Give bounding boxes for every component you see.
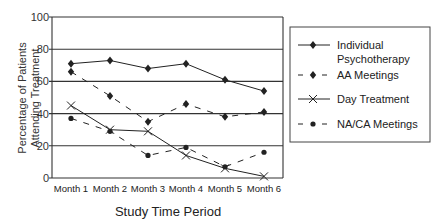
x-tick-label: Month 4 xyxy=(169,183,203,194)
diamond-marker-icon xyxy=(261,87,267,95)
legend-label: Psychotherapy xyxy=(337,53,410,65)
x-axis-title: Study Time Period xyxy=(115,204,221,219)
series-line xyxy=(71,106,264,177)
y-axis-title: Percentage of Patients Attending Treatme… xyxy=(16,42,41,154)
dot-marker-icon xyxy=(310,121,315,126)
diamond-marker-icon xyxy=(183,60,189,68)
diamond-marker-icon xyxy=(145,65,151,73)
dot-marker-icon xyxy=(145,153,150,158)
x-marker-icon xyxy=(260,172,268,180)
diamond-marker-icon xyxy=(107,56,113,64)
x-tick-label: Month 1 xyxy=(54,183,88,194)
diamond-marker-icon xyxy=(261,108,267,116)
series-line xyxy=(71,118,264,166)
dot-marker-icon xyxy=(261,150,266,155)
series-individual-psychotherapy xyxy=(68,56,267,95)
x-marker-icon xyxy=(67,102,75,110)
x-tick-label: Month 5 xyxy=(208,183,242,194)
series-line xyxy=(71,72,264,122)
legend-label: Day Treatment xyxy=(337,93,409,105)
diamond-marker-icon xyxy=(68,68,74,76)
dot-marker-icon xyxy=(68,116,73,121)
diamond-marker-icon xyxy=(68,60,74,68)
diamond-marker-icon xyxy=(145,118,151,126)
line-chart: 020406080100 Month 1Month 2Month 3Month … xyxy=(0,0,440,224)
diamond-marker-icon xyxy=(107,92,113,100)
y-tick-label: 0 xyxy=(43,172,49,184)
y-tick-label: 100 xyxy=(31,11,49,23)
series-line xyxy=(71,60,264,91)
dot-marker-icon xyxy=(222,164,227,169)
diamond-marker-icon xyxy=(222,76,228,84)
dot-marker-icon xyxy=(183,145,188,150)
legend: IndividualPsychotherapyAA MeetingsDay Tr… xyxy=(290,27,430,142)
gridlines xyxy=(49,17,283,178)
y-axis-title-line2: Attending Treatment xyxy=(29,48,41,147)
diamond-marker-icon xyxy=(183,100,189,108)
x-tick-label: Month 6 xyxy=(247,183,281,194)
data-series xyxy=(67,56,268,180)
x-tick-label: Month 2 xyxy=(93,183,127,194)
dot-marker-icon xyxy=(107,129,112,134)
legend-label: NA/CA Meetings xyxy=(337,118,418,130)
x-tick-label: Month 3 xyxy=(131,183,165,194)
x-marker-icon xyxy=(182,151,190,159)
legend-label: Individual xyxy=(337,39,383,51)
legend-label: AA Meetings xyxy=(337,69,399,81)
series-na-ca-meetings xyxy=(68,116,266,169)
series-aa-meetings xyxy=(68,68,267,126)
x-axis-ticks: Month 1Month 2Month 3Month 4Month 5Month… xyxy=(54,183,281,194)
y-axis-title-line1: Percentage of Patients xyxy=(16,42,28,154)
